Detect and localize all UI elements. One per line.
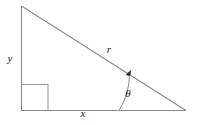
hypotenuse-line — [22, 6, 187, 111]
label-hypotenuse-r: r — [107, 43, 112, 55]
label-horizontal-leg-x: x — [80, 107, 86, 119]
right-angle-square — [22, 85, 49, 111]
triangle-diagram-svg: y x r θ — [0, 0, 197, 125]
label-vertical-leg-y: y — [7, 52, 13, 64]
triangle-figure: y x r θ — [0, 0, 197, 125]
label-angle-theta: θ — [125, 87, 131, 99]
